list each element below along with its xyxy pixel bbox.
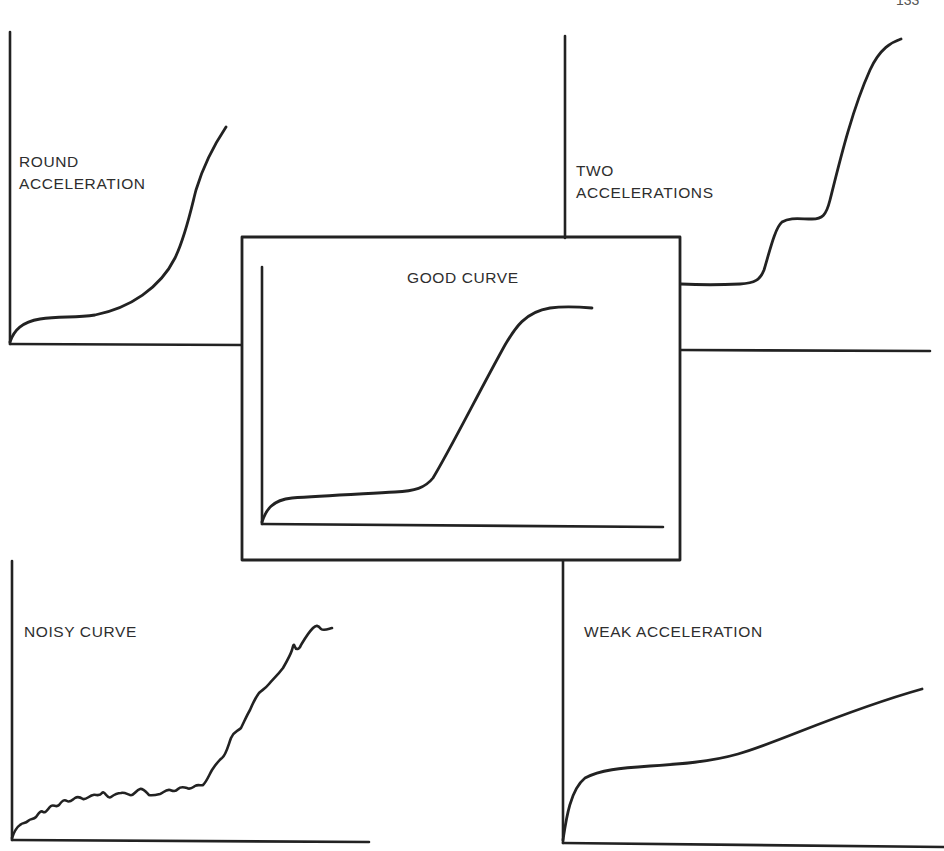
panel-noisy-curve xyxy=(12,561,369,842)
good-curve-label: GOOD CURVE xyxy=(407,267,519,289)
panel-weak-acceleration xyxy=(563,561,944,847)
round-acceleration-label: ROUND ACCELERATION xyxy=(19,151,146,195)
weak-acceleration-label: WEAK ACCELERATION xyxy=(584,621,763,643)
noisy-curve-label: NOISY CURVE xyxy=(24,621,137,643)
two-accelerations-curve xyxy=(681,39,901,285)
weak-acceleration-curve xyxy=(563,689,922,840)
round-acceleration-x-axis xyxy=(10,344,243,345)
weak-acceleration-x-axis xyxy=(563,843,944,847)
curve-shape-diagram xyxy=(0,0,944,851)
two-accelerations-x-axis xyxy=(681,350,930,351)
noisy-curve-curve xyxy=(12,626,332,838)
two-accelerations-label: TWO ACCELERATIONS xyxy=(576,160,714,204)
noisy-curve-x-axis xyxy=(12,840,369,842)
